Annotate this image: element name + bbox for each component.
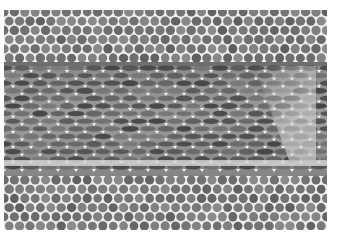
top-lattice	[4, 10, 327, 63]
micrograph-photo	[4, 10, 327, 230]
middle-band	[4, 62, 327, 176]
image-canvas	[0, 0, 337, 243]
lattice-graphic	[4, 10, 327, 230]
